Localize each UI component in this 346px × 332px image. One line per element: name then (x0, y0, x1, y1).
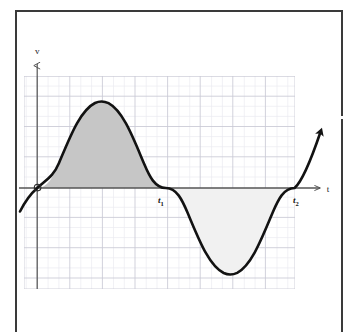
x-axis-label: t (327, 184, 330, 194)
graph-svg: v t t1 t2 (0, 0, 346, 332)
negative-area-region (166, 188, 295, 274)
tick-label-t2: t2 (293, 195, 299, 207)
tick-label-t1-subscript: 1 (161, 200, 164, 207)
origin-marker-icon (34, 184, 41, 191)
figure-page: v t t1 t2 (0, 0, 346, 332)
velocity-time-figure: v t t1 t2 (0, 0, 346, 332)
tick-label-t2-subscript: 2 (296, 200, 299, 207)
positive-area-region (37, 102, 166, 188)
tick-label-t1: t1 (158, 195, 164, 207)
y-axis-label: v (35, 46, 40, 56)
